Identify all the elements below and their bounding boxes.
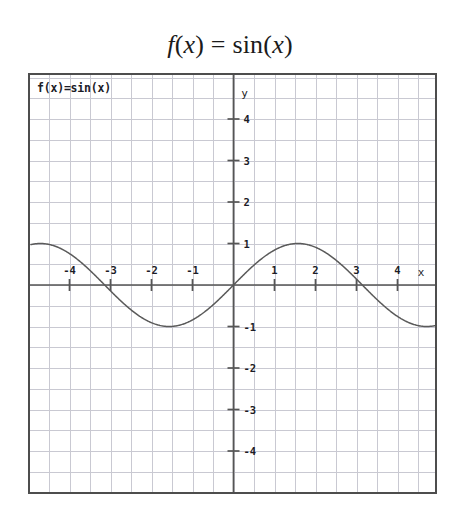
tick-label: 1 [244, 238, 250, 250]
tick-label: 1 [271, 264, 277, 276]
tick-label: 4 [244, 113, 250, 125]
title-var-x-1: x [184, 30, 196, 59]
graph-screenshot: f(x) = sin(x) -4-3-2-112344321-1-2-3-4xy… [0, 0, 460, 511]
title-var-x-2: x [272, 30, 284, 59]
plot-canvas: -4-3-2-112344321-1-2-3-4xy [30, 75, 435, 492]
tick-label: 2 [244, 196, 250, 208]
tick-label: 4 [394, 264, 400, 276]
tick-label: -2 [145, 264, 158, 276]
page-title: f(x) = sin(x) [0, 30, 460, 60]
tick-label-layer: -4-3-2-112344321-1-2-3-4xy [63, 87, 425, 457]
title-paren-open-1: ( [175, 30, 184, 59]
tick-label: 2 [312, 264, 318, 276]
tick-label: -1 [244, 321, 257, 333]
x-axis-label: x [418, 266, 425, 279]
tick-label: -3 [104, 264, 117, 276]
tick-label: 3 [353, 264, 359, 276]
title-equals: = [204, 30, 232, 59]
tick-label: 3 [244, 155, 250, 167]
tick-label: -2 [244, 362, 257, 374]
y-axis-label: y [241, 87, 248, 100]
title-paren-close-2: ) [284, 30, 293, 59]
tick-label: -4 [63, 264, 76, 276]
function-legend-label: f(x)=sin(x) [37, 81, 111, 95]
title-paren-open-2: ( [263, 30, 272, 59]
title-paren-close-1: ) [195, 30, 204, 59]
grid-layer [30, 75, 435, 492]
title-var-f: f [167, 30, 174, 59]
tick-label: -4 [244, 445, 257, 457]
plot-frame: -4-3-2-112344321-1-2-3-4xy f(x)=sin(x) [28, 73, 437, 494]
tick-label: -3 [244, 404, 257, 416]
tick-label: -1 [186, 264, 199, 276]
title-function-sin: sin [232, 30, 263, 59]
